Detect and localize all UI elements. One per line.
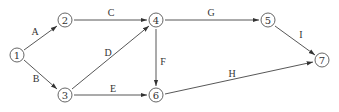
node-4: 4: [149, 13, 163, 27]
node-3: 3: [58, 88, 72, 102]
edge-label-D: D: [104, 47, 111, 58]
edges: [24, 20, 315, 95]
network-diagram: A B C D E F G H I 1 2 3 4 5: [0, 0, 339, 112]
edge-label-E: E: [110, 83, 116, 94]
node-7: 7: [315, 53, 329, 67]
edge-A: [24, 26, 57, 50]
node-1: 1: [10, 48, 24, 62]
edge-label-G: G: [207, 7, 214, 18]
node-4-label: 4: [153, 15, 159, 26]
edge-label-A: A: [31, 26, 39, 37]
node-2-label: 2: [62, 15, 68, 26]
edge-label-C: C: [108, 7, 115, 18]
node-5-label: 5: [265, 15, 271, 26]
edge-label-I: I: [299, 29, 302, 40]
node-6-label: 6: [153, 90, 159, 101]
edge-label-B: B: [33, 73, 40, 84]
edge-H: [165, 62, 313, 94]
node-6: 6: [149, 88, 163, 102]
node-3-label: 3: [62, 90, 68, 101]
nodes: 1 2 3 4 5 6 7: [10, 13, 329, 102]
edge-B: [24, 60, 57, 89]
node-2: 2: [58, 13, 72, 27]
edge-I: [275, 26, 315, 55]
node-7-label: 7: [319, 55, 325, 66]
node-5: 5: [261, 13, 275, 27]
edge-label-H: H: [228, 68, 235, 79]
edge-label-F: F: [160, 56, 166, 67]
node-1-label: 1: [14, 50, 20, 61]
